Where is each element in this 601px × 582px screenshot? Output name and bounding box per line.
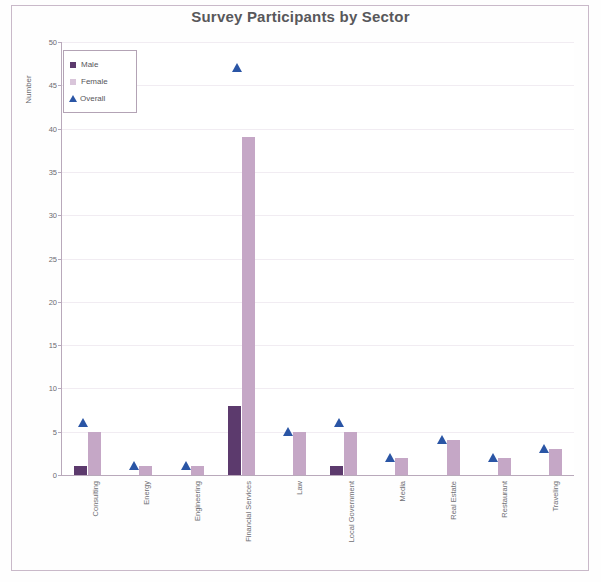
gridline	[62, 85, 574, 86]
y-axis-tick-label: 25	[31, 254, 57, 263]
chart-legend: Male Female Overall	[63, 50, 137, 113]
y-axis-tick-mark	[58, 432, 61, 433]
bar-female	[191, 466, 204, 475]
y-axis-tick-label: 30	[31, 211, 57, 220]
y-axis-tick-labels: 05101520253035404550	[27, 42, 57, 475]
overall-marker	[437, 435, 447, 444]
x-axis-tick-label: Consulting	[91, 481, 100, 516]
legend-label: Overall	[80, 94, 105, 103]
y-axis-tick-mark	[58, 475, 61, 476]
y-axis-tick-mark	[58, 85, 61, 86]
y-axis-tick-mark	[58, 129, 61, 130]
bar-female	[293, 432, 306, 475]
overall-marker	[129, 461, 139, 470]
y-axis-tick-mark	[58, 345, 61, 346]
legend-item-female[interactable]: Female	[70, 73, 131, 90]
gridline	[62, 302, 574, 303]
gridline	[62, 42, 574, 43]
gridline	[62, 259, 574, 260]
gridline	[62, 388, 574, 389]
bar-female	[344, 432, 357, 475]
plot-area	[62, 42, 574, 475]
overall-marker	[334, 418, 344, 427]
y-axis-tick-label: 10	[31, 384, 57, 393]
bar-female	[447, 440, 460, 475]
x-axis-tick-label: Real Estate	[449, 481, 458, 520]
y-axis-tick-mark	[58, 42, 61, 43]
bar-female	[139, 466, 152, 475]
y-axis-tick-mark	[58, 172, 61, 173]
y-axis-tick-mark	[58, 388, 61, 389]
bar-female	[549, 449, 562, 475]
chart-title: Survey Participants by Sector	[0, 8, 601, 25]
x-axis-tick-label: Financial Services	[244, 481, 253, 542]
bar-male	[228, 406, 241, 475]
gridline	[62, 172, 574, 173]
x-axis-tick-label: Engineering	[193, 481, 202, 521]
gridline	[62, 345, 574, 346]
y-axis-tick-label: 0	[31, 471, 57, 480]
overall-marker	[283, 427, 293, 436]
legend-label: Female	[81, 77, 108, 86]
y-axis-tick-label: 45	[31, 81, 57, 90]
x-axis-tick-label: Law	[295, 481, 304, 495]
bar-male	[74, 466, 87, 475]
x-axis-tick-label: Local Government	[347, 481, 356, 542]
y-axis-tick-mark	[58, 302, 61, 303]
overall-marker	[181, 461, 191, 470]
bar-female	[498, 458, 511, 475]
legend-item-male[interactable]: Male	[70, 56, 131, 73]
overall-marker	[539, 444, 549, 453]
bar-female	[395, 458, 408, 475]
triangle-marker-icon	[69, 95, 77, 102]
bar-male	[330, 466, 343, 475]
gridline	[62, 129, 574, 130]
overall-marker	[488, 453, 498, 462]
gridline	[62, 432, 574, 433]
square-swatch-icon	[70, 62, 76, 68]
x-axis-tick-label: Restaurant	[500, 481, 509, 518]
bar-female	[88, 432, 101, 475]
y-axis-tick-label: 35	[31, 167, 57, 176]
y-axis-tick-mark	[58, 215, 61, 216]
overall-marker	[78, 418, 88, 427]
gridline	[62, 215, 574, 216]
y-axis-tick-label: 5	[31, 427, 57, 436]
overall-marker	[385, 453, 395, 462]
chart-container: Survey Participants by Sector Number 051…	[0, 0, 601, 582]
bar-female	[242, 137, 255, 475]
y-axis-tick-label: 20	[31, 297, 57, 306]
y-axis-tick-label: 40	[31, 124, 57, 133]
overall-marker	[232, 63, 242, 72]
y-axis-tick-label: 15	[31, 341, 57, 350]
x-axis-tick-label: Traveling	[551, 481, 560, 512]
legend-label: Male	[81, 60, 98, 69]
legend-item-overall[interactable]: Overall	[70, 90, 131, 107]
x-axis-line	[61, 475, 574, 476]
y-axis-tick-label: 50	[31, 38, 57, 47]
x-axis-tick-label: Energy	[142, 481, 151, 505]
x-axis-tick-label: Media	[398, 481, 407, 501]
y-axis-tick-mark	[58, 259, 61, 260]
square-swatch-icon	[70, 79, 76, 85]
